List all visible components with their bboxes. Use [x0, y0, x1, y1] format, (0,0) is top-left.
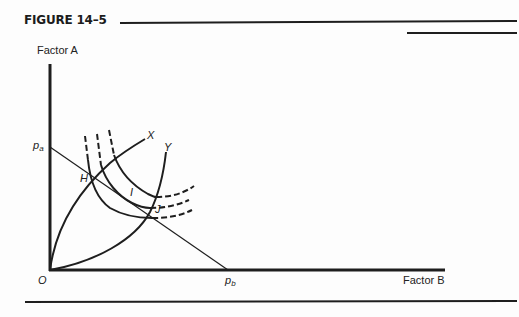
isocost-line — [50, 147, 228, 270]
curve-y-label: Y — [164, 141, 171, 153]
price-b-sub: b — [231, 279, 235, 288]
footer-rule — [25, 301, 517, 302]
isoquant-3 — [114, 155, 156, 197]
isoquant-3-dashed-top — [109, 130, 114, 155]
expansion-path-x — [50, 139, 145, 270]
curve-x-label: X — [147, 129, 154, 141]
expansion-path-y — [50, 152, 166, 270]
price-a-sub: a — [39, 144, 43, 153]
point-i-label: I — [130, 186, 133, 198]
isoquant-2 — [101, 165, 150, 208]
point-j-label: J — [155, 203, 161, 215]
isoquant-1-dashed-top — [85, 136, 88, 160]
isoquant-2-dashed-top — [97, 134, 101, 165]
origin-label: O — [38, 274, 47, 286]
x-axis-label: Factor B — [403, 274, 445, 286]
price-a-label: pa — [33, 139, 44, 153]
point-h-label: H — [80, 172, 88, 184]
y-axis-label: Factor A — [37, 44, 78, 56]
header-rule — [120, 21, 517, 23]
price-b-label: pb — [225, 274, 236, 288]
isoquant-3-dashed-right — [156, 186, 194, 197]
